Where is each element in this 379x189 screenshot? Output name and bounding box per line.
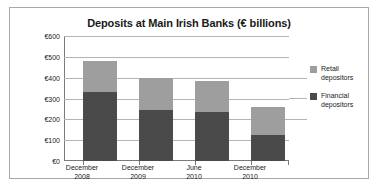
y-tick-label: €300 [16,95,60,102]
chart-title: Deposits at Main Irish Banks (€ billions… [10,17,368,29]
legend-label-line1: Retail [321,65,368,74]
y-tick-label: €500 [16,53,60,60]
legend-label-line1: Financial [321,92,368,101]
x-tick-label-line1: December [122,164,154,171]
gridline-extension [289,98,307,99]
x-tick-label-line2: 2010 [242,173,258,180]
legend-entry-financial: Financial depositors [310,92,368,109]
bar-segment-financial [195,112,229,161]
bar-segment-financial [139,110,173,161]
gridline-extension [289,119,307,120]
bar-december-2009 [139,36,173,161]
x-tick-label-line2: 2008 [74,173,90,180]
y-tick-label: €100 [16,137,60,144]
bar-segment-retail [251,107,285,135]
bar-december-2010 [251,36,285,161]
y-tick-label: €200 [16,116,60,123]
chart-figure: Deposits at Main Irish Banks (€ billions… [9,7,369,179]
x-tick-label-december-2010: December 2010 [210,164,290,181]
x-tick-label-line2: 2009 [130,173,146,180]
bar-segment-financial [83,92,117,161]
retail-swatch-icon [310,66,317,73]
financial-swatch-icon [310,93,317,100]
y-tick-label: €600 [16,33,60,40]
x-tick-label-line2: 2010 [186,173,202,180]
bar-segment-retail [83,61,117,92]
bar-segment-retail [195,81,229,112]
legend-label-line2: depositors [321,74,368,83]
gridline-extension [289,78,307,79]
chart-legend: Retail depositors Financial depositors [310,65,368,119]
bar-june-2010 [195,36,229,161]
x-tick-label-line1: December [66,164,98,171]
x-tick-label-line1: June [186,164,201,171]
y-axis: €600 €500 €400 €300 €200 €100 €0 [10,36,60,161]
bar-december-2008 [83,36,117,161]
legend-label-line2: depositors [321,101,368,110]
bar-segment-financial [251,135,285,161]
x-tick-label-line1: December [234,164,266,171]
bar-segment-retail [139,78,173,110]
y-tick-label: €400 [16,74,60,81]
legend-entry-retail: Retail depositors [310,65,368,82]
plot-area [64,36,289,161]
